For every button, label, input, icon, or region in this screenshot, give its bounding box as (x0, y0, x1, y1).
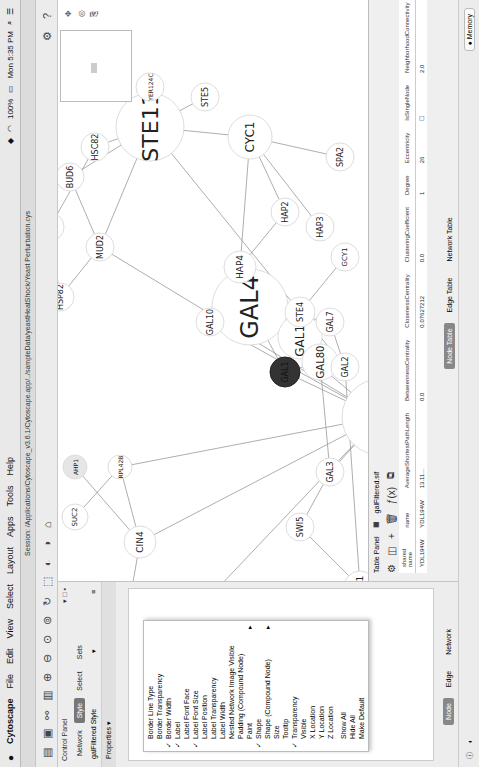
add-column-icon[interactable]: + (386, 533, 397, 539)
tab-style[interactable]: Style (74, 698, 85, 724)
menu-tools[interactable]: Tools (5, 481, 15, 512)
wifi-icon[interactable]: ◠ (6, 125, 15, 132)
refresh-icon[interactable]: ↻ (41, 595, 53, 607)
column-header[interactable]: AverageShortestPathLength (399, 407, 416, 494)
apple-icon[interactable]: ● (5, 749, 16, 767)
properties-menu-action[interactable]: Hide All (348, 621, 357, 751)
panel-float-icon[interactable]: ▾ □ ▪ (61, 588, 69, 603)
tab-edge-table[interactable]: Edge Table (444, 273, 455, 318)
network-node[interactable]: GAL2 (331, 353, 359, 381)
network-node[interactable]: GAL10 (196, 308, 224, 336)
network-node[interactable]: HAP2 (271, 198, 299, 226)
network-edge[interactable] (200, 417, 368, 581)
properties-menu-item[interactable]: Label Position (200, 621, 209, 751)
table-cell[interactable]: YDL194W (416, 534, 428, 573)
network-node[interactable]: MUD2 (86, 233, 114, 261)
help-icon[interactable]: ? (41, 10, 53, 22)
navigate-icon[interactable]: ✥ (64, 10, 73, 17)
column-header[interactable]: Eccentricity (399, 127, 416, 170)
tab-sets[interactable]: Sets (74, 640, 85, 664)
network-node[interactable]: STE4 (285, 297, 315, 327)
menu-edit[interactable]: Edit (5, 643, 15, 669)
table-cell[interactable]: 2.0 (416, 0, 428, 79)
show-icon[interactable]: ◑ (41, 538, 53, 550)
network-node[interactable]: AHP1 (63, 455, 87, 479)
column-header[interactable]: ClusteringCoefficient (399, 201, 416, 268)
table-cell[interactable]: 1 (416, 169, 428, 201)
menu-app[interactable]: Cytoscape (5, 693, 15, 749)
table-cell[interactable]: 26 (416, 127, 428, 170)
network-node[interactable]: GAL3 (316, 458, 344, 486)
gear-icon[interactable]: ⚙ (386, 564, 397, 573)
network-node[interactable]: HAP4 (224, 251, 256, 283)
network-node[interactable]: CYC1 (228, 115, 272, 159)
table-mode-icon[interactable]: ⧉ (385, 472, 397, 479)
properties-menu-item[interactable]: Size (272, 621, 281, 751)
tab-node[interactable]: Node (443, 698, 454, 725)
network-node[interactable]: GAL1 (270, 357, 300, 387)
column-header[interactable]: NeighborhoodConnectivity (399, 0, 416, 79)
column-header[interactable]: IsSingleNode (399, 79, 416, 127)
style-selector[interactable]: galFiltered Style ▾ ≡ (87, 582, 102, 767)
menu-layout[interactable]: Layout (5, 542, 15, 579)
columns-icon[interactable]: ◫ (386, 547, 397, 556)
network-node[interactable]: FAR1 (344, 571, 368, 581)
properties-menu-item[interactable]: Visible (299, 621, 308, 751)
network-canvas[interactable]: STE11MIG1GAL4GAL11GAL80GAL1GAL10CYC1GPA1… (58, 0, 368, 581)
menu-file[interactable]: File (5, 669, 15, 694)
overview-viewport[interactable] (91, 63, 97, 73)
tab-network[interactable]: Network (74, 725, 85, 761)
properties-menu-item[interactable]: Nested Network Image Visible (227, 621, 236, 751)
table-row[interactable]: YDL194WYDL194W13.11...0.00.076272120.012… (416, 0, 428, 573)
properties-button[interactable]: Properties ▾ (102, 582, 116, 767)
network-node[interactable]: HSP82 (58, 283, 74, 311)
menu-select[interactable]: Select (5, 579, 15, 614)
network-node[interactable]: MIG1 (342, 379, 368, 455)
properties-menu-item[interactable]: Tooltip (281, 621, 290, 751)
properties-menu-item[interactable]: Shape (Compound Node)▸ (263, 621, 272, 751)
export-icon[interactable]: ⎘ (90, 10, 100, 17)
style-options-icon[interactable]: ≡ (90, 590, 98, 594)
zoom-fit-icon[interactable]: ⊙ (41, 633, 53, 645)
tab-network-style[interactable]: Network (443, 624, 454, 660)
zoom-icon[interactable]: ◎ (77, 10, 86, 17)
network-node[interactable]: GCY1 (331, 243, 359, 271)
properties-menu-item[interactable]: ✓Transparency (290, 621, 299, 751)
network-node[interactable]: GAL7 (316, 308, 344, 336)
home-icon[interactable]: ⌂ (41, 519, 53, 531)
column-header[interactable]: ClosenessCentrality (399, 268, 416, 333)
function-builder-icon[interactable]: ƒ(x) (386, 487, 397, 504)
properties-menu-item[interactable]: Padding (Compound Node) (236, 621, 245, 751)
properties-menu-item[interactable]: Label Font Face (182, 621, 191, 751)
network-node[interactable]: SUC2 (62, 504, 88, 530)
network-node[interactable]: HSC82 (81, 133, 109, 161)
tasks-icon[interactable]: ◖ (466, 740, 473, 744)
column-header[interactable]: BetweennessCentrality (399, 334, 416, 407)
network-overview[interactable] (60, 30, 132, 102)
table-cell[interactable]: 0.0 (416, 334, 428, 407)
network-node[interactable]: RPL42B (108, 455, 132, 479)
network-node[interactable]: HAP3 (306, 213, 334, 241)
settings-icon[interactable]: ⚙ (41, 30, 53, 42)
node-circle[interactable] (342, 379, 368, 455)
network-node[interactable]: STE5 (191, 83, 219, 111)
battery-icon[interactable]: ▭ (6, 85, 15, 93)
properties-menu-item[interactable]: ✓Shape (254, 621, 263, 751)
import-table-icon[interactable]: ▥ (41, 690, 53, 702)
info-icon[interactable]: ⓘ (464, 752, 474, 759)
tab-node-table[interactable]: Node Table (444, 323, 455, 368)
notification-icon[interactable]: ☰ (6, 8, 15, 15)
table-cell[interactable]: YDL194W (416, 494, 428, 533)
properties-menu-item[interactable]: Paint▸ (245, 621, 254, 751)
properties-menu-item[interactable]: Label Transparency (209, 621, 218, 751)
tab-network-table[interactable]: Network Table (444, 212, 455, 266)
properties-menu-item[interactable]: X Location (308, 621, 317, 751)
memory-button[interactable]: ● Memory (464, 8, 475, 51)
network-node[interactable]: YER124C (136, 73, 164, 102)
menu-view[interactable]: View (5, 614, 15, 643)
properties-menu-item[interactable]: Border Line Type (146, 621, 155, 751)
zoom-in-icon[interactable]: ⊕ (41, 671, 53, 683)
properties-menu-item[interactable]: Z Location (326, 621, 335, 751)
network-node[interactable]: CNS1 (58, 213, 64, 241)
properties-menu-action[interactable]: Make Default (357, 621, 366, 751)
